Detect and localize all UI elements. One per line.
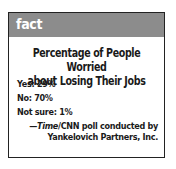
fact-header: fact [9,13,164,37]
source-line-1-rest: /CNN poll conducted by [58,121,158,131]
stat-yes: Yes: 29% [17,79,55,89]
source-publication: Time [37,121,58,131]
stat-not-sure: Not sure: 1% [17,107,72,117]
source-attribution: —Time/CNN poll conducted by Yankelovich … [29,121,158,143]
stat-no: No: 70% [17,93,53,103]
source-line-1: —Time/CNN poll conducted by [29,121,158,132]
fact-label: fact [16,16,42,32]
title-line-1: Percentage of People Worried [15,46,158,74]
source-line-2: Yankelovich Partners, Inc. [29,132,158,143]
fact-box: fact Percentage of People Worried about … [8,12,165,158]
source-dash: — [29,121,37,131]
